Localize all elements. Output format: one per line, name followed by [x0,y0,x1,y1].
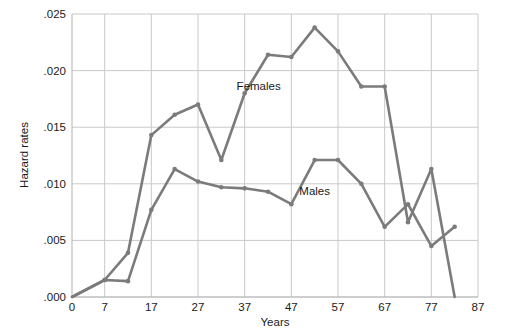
data-point [336,49,341,54]
y-tick-label: .015 [44,121,66,133]
data-point [266,189,271,194]
data-point [382,84,387,89]
x-tick-label: 67 [378,301,391,313]
data-point [196,179,201,184]
data-point [312,158,317,163]
data-point [219,158,224,163]
data-point [242,186,247,191]
data-point [196,102,201,107]
data-point [452,225,457,230]
x-axis-title: Years [261,316,290,328]
data-point [219,185,224,190]
data-point [126,251,131,256]
x-tick-label: 0 [69,301,75,313]
data-point [429,244,434,249]
x-tick-label: 27 [192,301,205,313]
x-tick-label: 87 [472,301,485,313]
y-tick-label: .000 [44,291,66,303]
data-point [382,225,387,230]
y-axis-tick-labels: .000.005.010.015.020.025 [44,8,66,303]
data-point [312,25,317,30]
y-tick-label: .005 [44,234,66,246]
data-point [289,202,294,207]
data-point [359,84,364,89]
data-point [406,220,411,225]
data-point [149,133,154,138]
data-point [172,167,177,172]
data-point [149,208,154,213]
annotation-males: Males [299,185,330,197]
data-point [429,167,434,172]
x-tick-label: 17 [145,301,158,313]
x-axis-tick-labels: 071727374757677787 [69,301,485,313]
chart-canvas: 071727374757677787 .000.005.010.015.020.… [0,0,507,333]
y-tick-label: .025 [44,8,66,20]
hazard-rates-chart: 071727374757677787 .000.005.010.015.020.… [0,0,507,333]
y-tick-label: .020 [44,65,66,77]
data-point [172,112,177,117]
annotation-females: Females [237,80,281,92]
data-point [289,55,294,60]
data-point [126,279,131,284]
x-tick-label: 57 [332,301,345,313]
data-point [266,52,271,57]
x-tick-label: 47 [285,301,298,313]
y-tick-label: .010 [44,178,66,190]
data-point [102,278,107,283]
data-point [336,158,341,163]
data-point [359,182,364,187]
x-tick-label: 7 [101,301,107,313]
data-point [406,202,411,207]
x-tick-label: 77 [425,301,438,313]
x-tick-label: 37 [238,301,251,313]
y-axis-title: Hazard rates [18,122,30,188]
